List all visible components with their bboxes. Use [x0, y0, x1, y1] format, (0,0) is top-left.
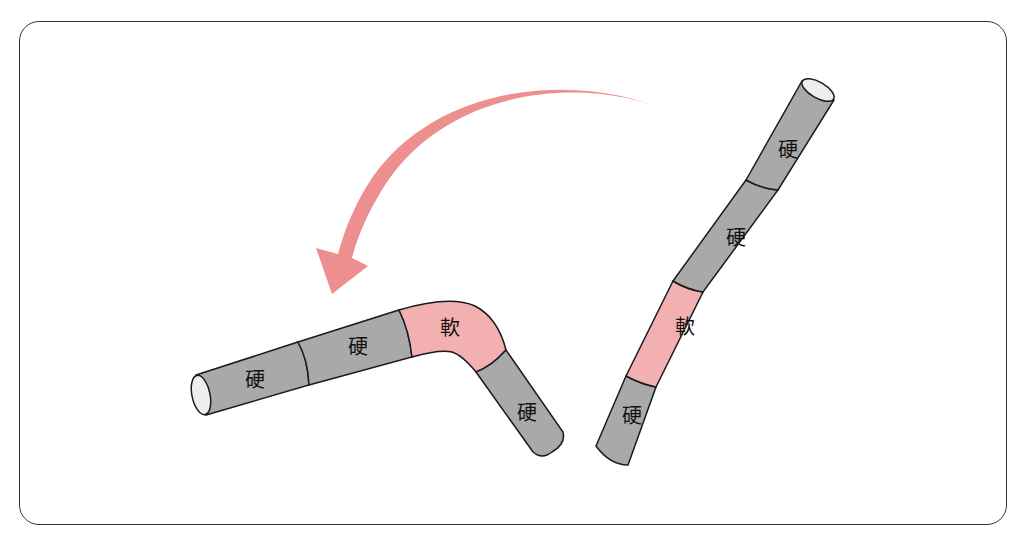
straight-rod: 硬 硬 軟 硬 [596, 74, 838, 465]
bent-label-1: 硬 [245, 368, 265, 392]
straight-label-2: 硬 [726, 226, 746, 250]
bent-label-4: 硬 [517, 401, 537, 425]
bent-label-2: 硬 [348, 335, 368, 359]
straight-label-4: 硬 [622, 404, 642, 428]
bent-label-3: 軟 [440, 316, 460, 340]
bent-rod: 硬 硬 軟 硬 [188, 301, 563, 456]
rod-diagram: 硬 硬 軟 硬 硬 硬 軟 硬 [0, 0, 1025, 541]
straight-label-3: 軟 [675, 315, 695, 339]
straight-label-1: 硬 [778, 138, 798, 162]
curved-arrow-icon [316, 90, 672, 294]
